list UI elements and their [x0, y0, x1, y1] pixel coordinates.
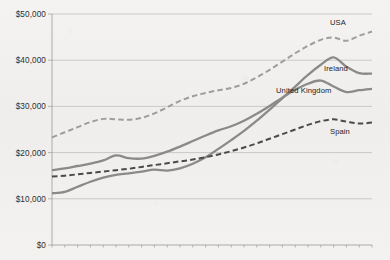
series-label-spain: Spain [330, 127, 350, 136]
line-chart: $0$10,000$20,000$30,000$40,000$50,000USA… [0, 0, 390, 260]
y-axis-label-20000: $20,000 [16, 149, 47, 158]
y-axis-label-10000: $10,000 [16, 195, 47, 204]
chart-canvas: $0$10,000$20,000$30,000$40,000$50,000USA… [0, 0, 390, 260]
series-label-united-kingdom: United Kingdom [276, 86, 331, 95]
y-axis-label-0: $0 [37, 241, 47, 250]
y-axis-label-50000: $50,000 [16, 10, 47, 19]
y-axis-label-30000: $30,000 [16, 102, 47, 111]
series-label-usa: USA [330, 18, 347, 27]
series-label-ireland: Ireland [324, 64, 348, 73]
series-line-spain [52, 119, 372, 176]
y-axis-label-40000: $40,000 [16, 56, 47, 65]
